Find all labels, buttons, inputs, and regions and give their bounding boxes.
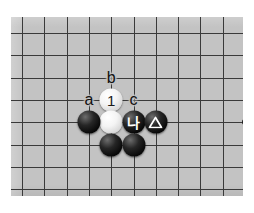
grid-line-horizontal-0 (11, 33, 243, 34)
stone-korean-label: 나 (127, 115, 140, 129)
stone-black-b5[interactable] (122, 133, 145, 156)
stone-black-b4[interactable] (100, 133, 123, 156)
grid-line-horizontal-7 (11, 189, 243, 190)
point-label-c[interactable]: c (130, 92, 138, 108)
stone-move-number: 1 (107, 92, 115, 107)
triangle-marker-icon (149, 116, 163, 128)
star-point-0 (242, 119, 243, 125)
grid-line-vertical-0 (22, 17, 23, 196)
point-label-a[interactable]: a (84, 92, 93, 108)
go-diagram-root: bac 1나 (0, 0, 254, 213)
grid-line-vertical-7 (178, 17, 179, 196)
grid-line-horizontal-2 (11, 78, 243, 79)
stone-white-w1[interactable]: 1 (100, 88, 123, 111)
stone-black-b3[interactable] (144, 111, 167, 134)
grid-line-vertical-9 (223, 17, 224, 196)
grid-line-vertical-6 (156, 17, 157, 196)
grid-line-horizontal-6 (11, 167, 243, 168)
grid-line-vertical-8 (200, 17, 201, 196)
go-board[interactable]: bac 1나 (11, 17, 243, 196)
grid-line-vertical-2 (67, 17, 68, 196)
board-paper-shading (11, 17, 243, 196)
stone-white-w2[interactable] (100, 111, 123, 134)
grid-line-horizontal-3 (11, 100, 243, 101)
grid-line-vertical-1 (44, 17, 45, 196)
point-label-b[interactable]: b (107, 70, 116, 86)
grid-line-horizontal-1 (11, 55, 243, 56)
stone-black-b1[interactable] (77, 111, 100, 134)
stone-black-b2[interactable]: 나 (122, 111, 145, 134)
